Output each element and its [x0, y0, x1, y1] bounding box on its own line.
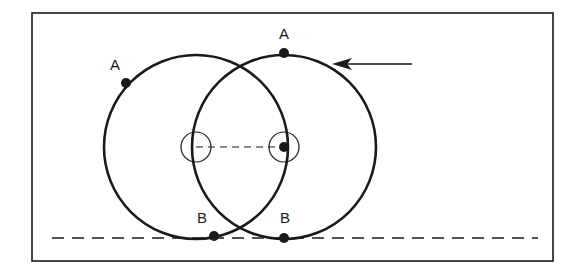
frame-border [32, 13, 553, 261]
left-label-b: B [197, 209, 207, 226]
right-point-b-dot [279, 233, 289, 243]
right-label-a: A [279, 25, 289, 42]
diagram-stage: A B A B [0, 0, 580, 270]
right-label-b: B [280, 209, 290, 226]
left-point-b-dot [209, 231, 219, 241]
left-point-a-dot [121, 78, 131, 88]
right-point-a-dot [279, 48, 289, 58]
rotation-arrow [332, 58, 412, 70]
left-label-a: A [110, 56, 120, 73]
rolling-circle-diagram: A B A B [0, 0, 580, 270]
right-center-dot [279, 142, 289, 152]
